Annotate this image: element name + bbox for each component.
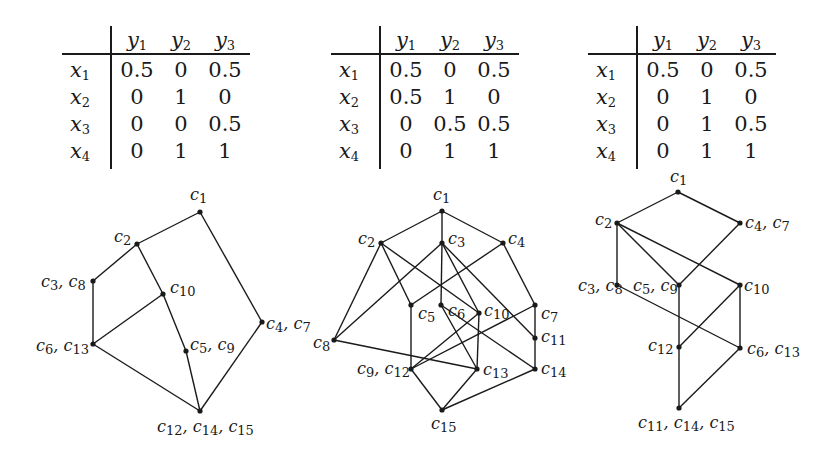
- graph-edge: [477, 313, 479, 369]
- node-label: c13: [483, 361, 509, 383]
- graph-edge: [679, 223, 740, 285]
- graph-node: [197, 408, 202, 413]
- graph-edge: [442, 369, 477, 410]
- node-label: c1: [433, 186, 450, 208]
- node-label: c3: [448, 230, 465, 252]
- node-label: c9, c12: [357, 360, 410, 382]
- graph-node: [90, 341, 95, 346]
- graph-node: [408, 302, 413, 307]
- graph-node: [614, 220, 619, 225]
- graph-edge: [617, 223, 679, 285]
- node-label: c6, c13: [747, 340, 800, 362]
- node-label: c8: [313, 334, 330, 356]
- graph-node: [476, 310, 481, 315]
- graph-edge: [503, 243, 535, 305]
- node-label: c5, c9: [190, 336, 235, 358]
- node-label: c5: [418, 305, 435, 327]
- node-label: c1: [190, 186, 207, 208]
- node-label: c4, c7: [745, 214, 790, 236]
- graph-edge: [381, 211, 442, 243]
- node-label: c14: [541, 360, 567, 382]
- node-label: c1: [670, 168, 687, 190]
- graph-edge: [441, 243, 442, 305]
- node-label: c12: [648, 337, 674, 359]
- graph-node: [474, 366, 479, 371]
- graph-node: [737, 282, 742, 287]
- graph-edge: [137, 212, 200, 244]
- graph-node: [197, 209, 202, 214]
- graph-node: [259, 319, 264, 324]
- node-label: c12, c14, c15: [157, 418, 254, 440]
- graph-node: [134, 241, 139, 246]
- node-label: c4: [508, 230, 525, 252]
- node-label: c5, c9: [633, 277, 678, 299]
- node-label: c11, c14, c15: [638, 414, 735, 436]
- graph-node: [737, 345, 742, 350]
- graph-node: [160, 291, 165, 296]
- graph-node: [675, 189, 680, 194]
- graph-edge: [411, 369, 442, 410]
- graph-node: [532, 335, 537, 340]
- node-label: c11: [541, 328, 567, 350]
- node-label: c4, c7: [266, 315, 311, 337]
- graph-node: [378, 240, 383, 245]
- graph-node: [737, 220, 742, 225]
- graph-edge: [163, 294, 186, 351]
- graph-edge: [679, 285, 740, 347]
- graph-node: [500, 240, 505, 245]
- graph-edge: [137, 244, 163, 294]
- graph-node: [532, 366, 537, 371]
- graph-edge: [334, 243, 381, 340]
- graph-node: [438, 302, 443, 307]
- node-label: c3, c8: [41, 273, 86, 295]
- graph-edge: [186, 351, 200, 411]
- node-label: c10: [170, 279, 196, 301]
- graph-edge: [93, 294, 163, 344]
- node-label: c2: [595, 211, 612, 233]
- graph-node: [183, 348, 188, 353]
- graph-edge: [93, 344, 200, 411]
- graph-edge: [678, 192, 740, 223]
- graph-edge: [679, 348, 740, 408]
- node-label: c2: [114, 228, 131, 250]
- graph-node: [532, 302, 537, 307]
- graph-edge: [200, 212, 262, 322]
- node-label: c6: [448, 302, 465, 324]
- graph-node: [676, 344, 681, 349]
- node-label: c7: [541, 305, 558, 327]
- graph-node: [439, 407, 444, 412]
- graph-edge: [617, 192, 678, 223]
- graph-node: [331, 337, 336, 342]
- node-label: c15: [431, 415, 457, 437]
- node-label: c6, c13: [36, 337, 89, 359]
- node-label: c2: [358, 230, 375, 252]
- graph-node: [439, 208, 444, 213]
- graph-node: [676, 405, 681, 410]
- node-label: c3, c8: [578, 277, 623, 299]
- node-label: c10: [484, 302, 510, 324]
- node-label: c10: [744, 277, 770, 299]
- graph-node: [90, 278, 95, 283]
- graph-node: [439, 240, 444, 245]
